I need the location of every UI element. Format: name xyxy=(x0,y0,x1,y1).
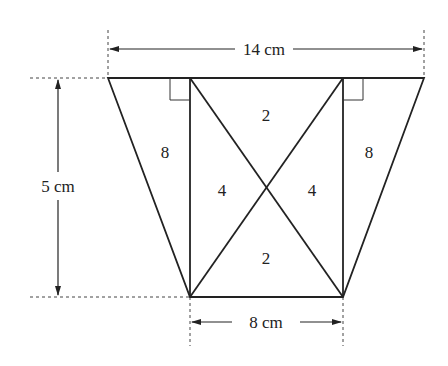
right-triangle-area: 8 xyxy=(365,143,374,162)
top-triangle-area: 2 xyxy=(262,106,271,125)
diagram-canvas: 14 cm 5 cm 8 cm 8 8 2 2 4 4 xyxy=(0,0,448,366)
left-inner-triangle-area: 4 xyxy=(218,181,227,200)
bottom-width-label: 8 cm xyxy=(249,313,283,332)
trapezoid-diagram: 14 cm 5 cm 8 cm 8 8 2 2 4 4 xyxy=(0,0,448,366)
height-label: 5 cm xyxy=(41,177,75,196)
right-inner-triangle-area: 4 xyxy=(308,181,317,200)
bottom-triangle-area: 2 xyxy=(262,249,271,268)
top-width-label: 14 cm xyxy=(243,40,285,59)
right-angle-markers xyxy=(170,78,363,100)
left-triangle-area: 8 xyxy=(161,143,170,162)
